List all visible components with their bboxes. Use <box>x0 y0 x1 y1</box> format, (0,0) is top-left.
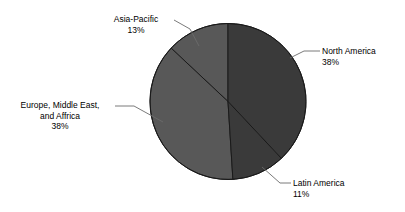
slice-label-latin-america: Latin America 11% <box>293 178 373 199</box>
slice-label-asia-pacific-percent: 13% <box>100 25 172 36</box>
slice-label-north-america-name: North America <box>322 46 376 56</box>
slice-label-north-america-percent: 38% <box>322 57 402 68</box>
slice-label-asia-pacific-name: Asia-Pacific <box>114 14 158 24</box>
slice-label-north-america: North America 38% <box>322 46 402 67</box>
leader-line-north-america <box>290 51 320 58</box>
slice-label-emea: Europe, Middle East, and Affrica 38% <box>8 100 112 132</box>
slice-label-emea-name-line1: Europe, Middle East, <box>21 100 100 110</box>
slice-label-latin-america-percent: 11% <box>293 189 373 200</box>
slice-label-emea-percent: 38% <box>8 121 112 132</box>
slice-label-latin-america-name: Latin America <box>293 178 345 188</box>
slice-label-emea-name-line2: and Affrica <box>8 111 112 122</box>
pie-chart-figure: Asia-Pacific 13% North America 38% Europ… <box>0 0 405 212</box>
slice-label-asia-pacific: Asia-Pacific 13% <box>100 14 172 35</box>
